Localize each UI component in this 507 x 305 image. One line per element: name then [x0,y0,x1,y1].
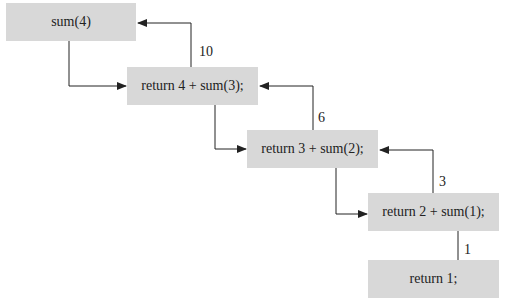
return-arrow-10 [138,23,191,67]
return-value-label-3: 3 [439,174,446,190]
return-value-label-6: 6 [318,110,325,126]
return-arrow-6 [260,86,313,130]
return-arrow-3 [380,150,433,193]
call-arrow-sum4-to-sum3 [69,41,126,86]
box-sum4: sum(4) [6,3,136,41]
return-value-label-1: 1 [464,242,471,258]
return-value-label-10: 10 [199,44,213,60]
box-sum2: return 3 + sum(2); [247,130,378,168]
box-base-case: return 1; [368,260,499,298]
box-sum1: return 2 + sum(1); [368,193,499,231]
box-sum3: return 4 + sum(3); [127,67,258,105]
call-arrow-sum2-to-sum1 [336,168,367,214]
call-arrow-sum3-to-sum2 [215,105,246,149]
